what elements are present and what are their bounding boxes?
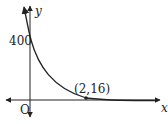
data-point xyxy=(84,96,88,100)
origin-label: O xyxy=(20,103,30,117)
x-axis-label: x xyxy=(161,101,168,115)
graph: y x O 400 (2,16) xyxy=(0,0,168,124)
y-intercept-label: 400 xyxy=(9,34,32,48)
point-label: (2,16) xyxy=(74,82,110,96)
y-axis-label: y xyxy=(34,4,42,18)
